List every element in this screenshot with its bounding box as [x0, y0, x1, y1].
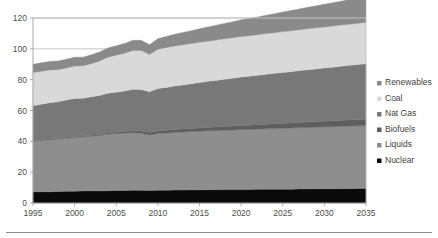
legend-swatch-liquids: [377, 143, 382, 148]
y-tick-label-120: 120: [13, 13, 27, 23]
x-tick-label-2010: 2010: [148, 208, 167, 218]
legend-swatch-nat-gas: [377, 112, 382, 117]
y-tick-label-60: 60: [18, 106, 28, 116]
x-tick-label-2015: 2015: [190, 208, 209, 218]
y-tick-label-20: 20: [18, 167, 28, 177]
legend-label-renewables: Renewables: [385, 77, 432, 87]
stacked-area-chart: 120100806040200 199520002005201020152020…: [0, 0, 438, 238]
y-tick-label-0: 0: [22, 198, 27, 208]
x-tick-label-2035: 2035: [357, 208, 376, 218]
legend-swatch-biofuels: [377, 128, 382, 133]
x-tick-label-1995: 1995: [24, 208, 43, 218]
y-tick-label-100: 100: [13, 44, 27, 54]
x-tick-label-2000: 2000: [65, 208, 84, 218]
legend-label-nat-gas: Nat Gas: [385, 108, 416, 118]
legend-label-liquids: Liquids: [385, 139, 412, 149]
legend-label-coal: Coal: [385, 93, 403, 103]
x-tick-label-2005: 2005: [107, 208, 126, 218]
y-tick-label-80: 80: [18, 75, 28, 85]
x-tick-label-2030: 2030: [315, 208, 334, 218]
legend-label-nuclear: Nuclear: [385, 155, 414, 165]
legend-label-biofuels: Biofuels: [385, 124, 415, 134]
x-tick-label-2025: 2025: [273, 208, 292, 218]
legend-swatch-renewables: [377, 81, 382, 86]
legend-swatch-coal: [377, 97, 382, 102]
y-tick-label-40: 40: [18, 136, 28, 146]
x-tick-label-2020: 2020: [232, 208, 251, 218]
chart-container: 120100806040200 199520002005201020152020…: [0, 0, 438, 238]
legend-swatch-nuclear: [377, 159, 382, 164]
